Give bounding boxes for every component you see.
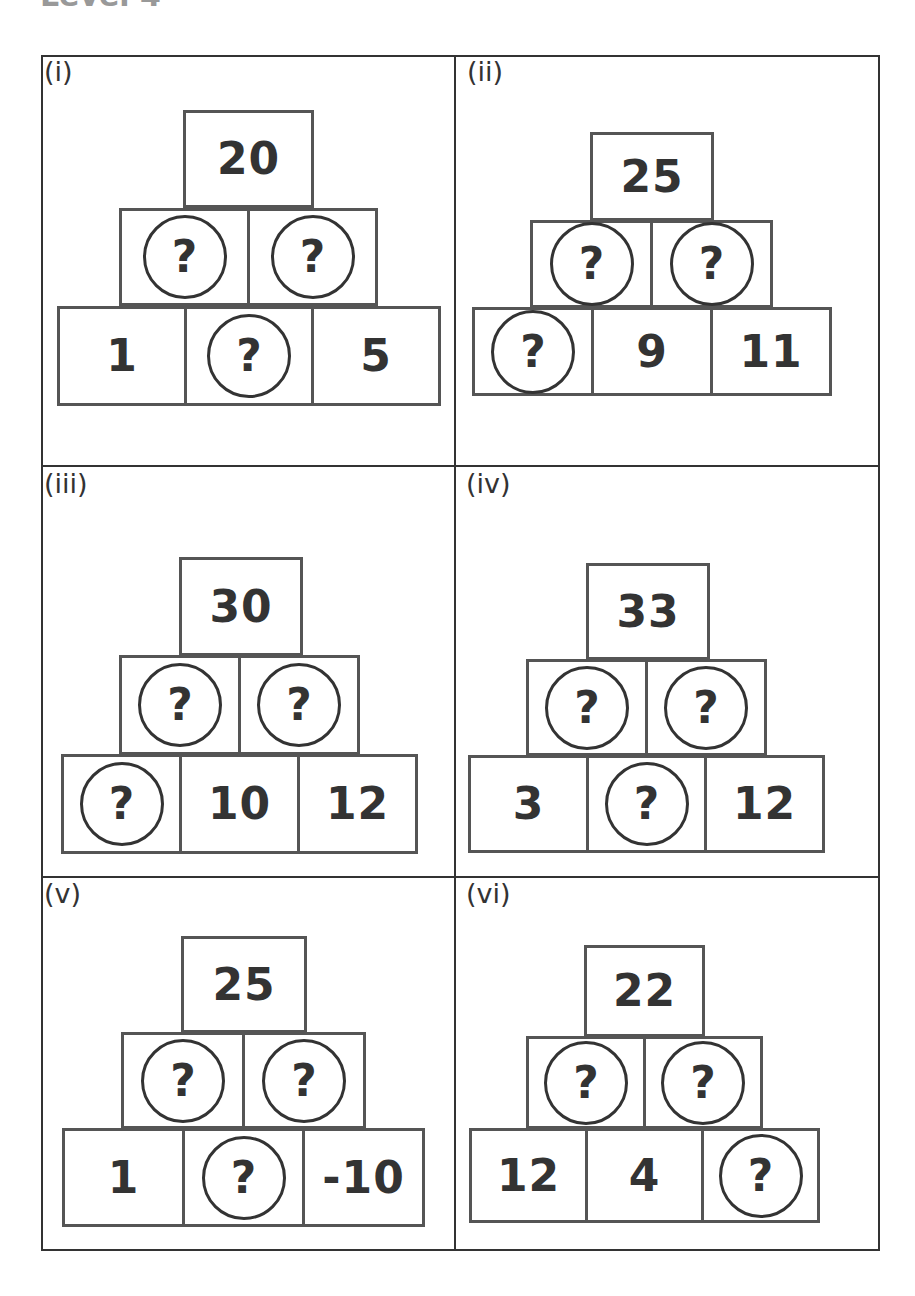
question-circle-icon[interactable]: ? (143, 215, 227, 299)
unknown-value: ? (291, 1059, 317, 1103)
unknown-value: ? (286, 683, 312, 727)
panel-label: (vi) (466, 880, 511, 907)
known-value: 4 (629, 1154, 661, 1198)
unknown-value: ? (634, 782, 660, 826)
pyramid-bottom-cell: 11 (710, 307, 832, 396)
known-value: 5 (360, 334, 392, 378)
pyramid-middle-cell[interactable]: ? (119, 208, 250, 306)
panel-label: (iv) (466, 470, 511, 497)
pyramid-middle-cell[interactable]: ? (121, 1032, 245, 1129)
unknown-value: ? (690, 1061, 716, 1105)
pyramid-middle-cell[interactable]: ? (650, 220, 773, 308)
pyramid-top-cell: 22 (584, 945, 705, 1037)
unknown-value: ? (300, 235, 326, 279)
question-circle-icon[interactable]: ? (262, 1039, 346, 1123)
pyramid-middle-cell[interactable]: ? (247, 208, 378, 306)
question-circle-icon[interactable]: ? (138, 663, 222, 747)
pyramid-bottom-cell[interactable]: ? (184, 306, 314, 406)
known-value: 9 (636, 330, 668, 374)
unknown-value: ? (172, 235, 198, 279)
unknown-value: ? (748, 1154, 774, 1198)
known-value: 1 (106, 334, 138, 378)
known-value: 10 (208, 782, 271, 826)
pyramid-bottom-cell: -10 (302, 1128, 425, 1227)
panel-label: (ii) (467, 58, 503, 85)
pyramid-bottom-cell[interactable]: ? (701, 1128, 820, 1223)
unknown-value: ? (574, 686, 600, 730)
pyramid-bottom-cell: 9 (591, 307, 713, 396)
unknown-value: ? (109, 782, 135, 826)
pyramid-bottom-cell: 1 (57, 306, 187, 406)
question-circle-icon[interactable]: ? (491, 310, 575, 394)
known-value: 12 (326, 782, 389, 826)
question-circle-icon[interactable]: ? (664, 666, 748, 750)
question-circle-icon[interactable]: ? (661, 1041, 745, 1125)
pyramid-bottom-cell: 3 (468, 755, 589, 853)
pyramid-top-cell: 20 (183, 110, 314, 208)
pyramid-middle-cell[interactable]: ? (645, 659, 767, 756)
known-value: 30 (209, 585, 272, 629)
worksheet-heading: Level 4 (40, 0, 161, 13)
known-value: 1 (108, 1156, 140, 1200)
question-circle-icon[interactable]: ? (271, 215, 355, 299)
pyramid-middle-cell[interactable]: ? (238, 655, 360, 755)
pyramid-top-cell: 25 (181, 936, 307, 1033)
pyramid-top-cell: 30 (179, 557, 303, 656)
pyramid-top-cell: 25 (590, 132, 714, 221)
pyramid-bottom-cell: 12 (704, 755, 825, 853)
pyramid-bottom-cell: 10 (179, 754, 300, 854)
known-value: 22 (613, 969, 676, 1013)
pyramid-middle-cell[interactable]: ? (526, 659, 648, 756)
unknown-value: ? (699, 242, 725, 286)
pyramid-bottom-cell[interactable]: ? (586, 755, 707, 853)
known-value: 12 (497, 1154, 560, 1198)
known-value: 25 (212, 963, 275, 1007)
known-value: 3 (513, 782, 545, 826)
known-value: 25 (620, 155, 683, 199)
pyramid-bottom-cell: 5 (311, 306, 441, 406)
known-value: 20 (217, 137, 280, 181)
question-circle-icon[interactable]: ? (257, 663, 341, 747)
pyramid-bottom-cell[interactable]: ? (182, 1128, 305, 1227)
pyramid-bottom-cell[interactable]: ? (472, 307, 594, 396)
pyramid-bottom-cell: 12 (297, 754, 418, 854)
pyramid-bottom-cell: 4 (585, 1128, 704, 1223)
unknown-value: ? (231, 1156, 257, 1200)
pyramid-bottom-cell: 12 (469, 1128, 588, 1223)
known-value: -10 (322, 1156, 405, 1200)
grid-divider-horizontal-1 (41, 465, 880, 467)
unknown-value: ? (236, 334, 262, 378)
question-circle-icon[interactable]: ? (719, 1134, 803, 1218)
question-circle-icon[interactable]: ? (80, 762, 164, 846)
panel-label: (i) (44, 58, 73, 85)
pyramid-bottom-cell[interactable]: ? (61, 754, 182, 854)
grid-divider-vertical (454, 55, 456, 1251)
question-circle-icon[interactable]: ? (544, 1041, 628, 1125)
unknown-value: ? (579, 242, 605, 286)
pyramid-middle-cell[interactable]: ? (119, 655, 241, 755)
unknown-value: ? (693, 686, 719, 730)
pyramid-middle-cell[interactable]: ? (643, 1036, 763, 1129)
panel-label: (v) (44, 880, 81, 907)
unknown-value: ? (170, 1059, 196, 1103)
question-circle-icon[interactable]: ? (202, 1136, 286, 1220)
pyramid-top-cell: 33 (586, 563, 710, 660)
question-circle-icon[interactable]: ? (207, 314, 291, 398)
pyramid-middle-cell[interactable]: ? (242, 1032, 366, 1129)
known-value: 12 (733, 782, 796, 826)
question-circle-icon[interactable]: ? (141, 1039, 225, 1123)
pyramid-middle-cell[interactable]: ? (526, 1036, 646, 1129)
panel-label: (iii) (44, 470, 88, 497)
unknown-value: ? (167, 683, 193, 727)
question-circle-icon[interactable]: ? (550, 222, 634, 306)
pyramid-middle-cell[interactable]: ? (530, 220, 653, 308)
unknown-value: ? (573, 1061, 599, 1105)
question-circle-icon[interactable]: ? (545, 666, 629, 750)
grid-divider-horizontal-2 (41, 876, 880, 878)
unknown-value: ? (520, 330, 546, 374)
pyramid-bottom-cell: 1 (62, 1128, 185, 1227)
question-circle-icon[interactable]: ? (670, 222, 754, 306)
question-circle-icon[interactable]: ? (605, 762, 689, 846)
known-value: 11 (739, 330, 802, 374)
known-value: 33 (616, 590, 679, 634)
